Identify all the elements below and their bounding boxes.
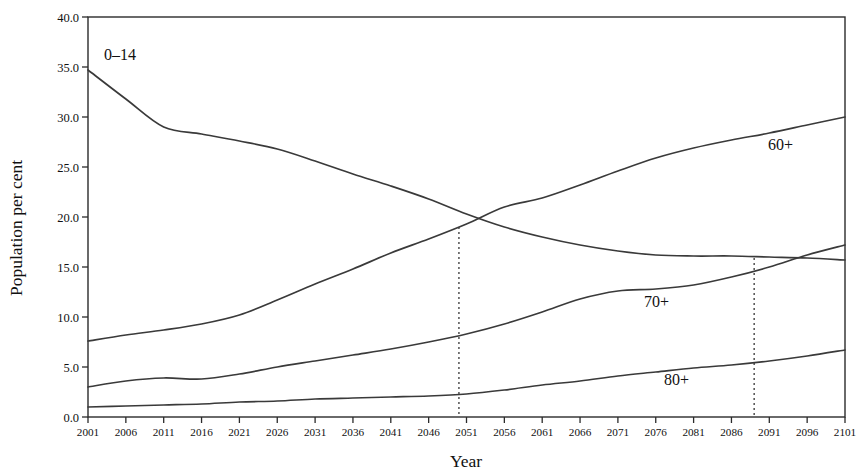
y-axis-title: Population per cent	[6, 160, 26, 296]
x-tick-label: 2071	[607, 426, 629, 438]
y-tick-label: 30.0	[57, 111, 79, 125]
y-tick-label: 25.0	[57, 161, 79, 175]
series-lines	[88, 70, 845, 407]
series-line-0-14	[88, 70, 845, 260]
x-tick-label: 2021	[228, 426, 250, 438]
y-tick-label: 10.0	[57, 311, 79, 325]
x-tick-label: 2026	[266, 426, 289, 438]
x-tick-label: 2051	[455, 426, 477, 438]
x-tick-label: 2101	[834, 426, 856, 438]
y-tick-label: 35.0	[57, 61, 79, 75]
x-tick-label: 2011	[153, 426, 175, 438]
x-axis-title: Year	[450, 451, 482, 471]
series-inline-labels: 0–1460+70+80+	[104, 46, 793, 388]
series-label-0-14: 0–14	[104, 46, 136, 63]
y-tick-label: 5.0	[63, 361, 79, 375]
plot-border	[88, 17, 845, 417]
x-tick-label: 2046	[417, 426, 440, 438]
y-tick-label: 15.0	[57, 261, 79, 275]
x-tick-label: 2056	[493, 426, 516, 438]
y-tick-label: 40.0	[57, 11, 79, 25]
series-line-60+	[88, 117, 845, 341]
y-axis-ticks: 0.05.010.015.020.025.030.035.040.0	[57, 11, 88, 425]
x-tick-label: 2091	[758, 426, 780, 438]
series-label-80+: 80+	[664, 371, 689, 388]
x-tick-label: 2031	[304, 426, 326, 438]
y-tick-label: 20.0	[57, 211, 79, 225]
x-tick-label: 2086	[720, 426, 743, 438]
x-tick-label: 2076	[645, 426, 668, 438]
x-tick-label: 2036	[342, 426, 365, 438]
population-projection-chart: 0.05.010.015.020.025.030.035.040.0 20012…	[0, 0, 868, 473]
series-label-70+: 70+	[644, 293, 669, 310]
chart-canvas: 0.05.010.015.020.025.030.035.040.0 20012…	[0, 0, 868, 473]
y-tick-label: 0.0	[63, 411, 79, 425]
x-tick-label: 2061	[531, 426, 553, 438]
plot-frame	[88, 17, 845, 417]
x-tick-label: 2041	[380, 426, 402, 438]
x-tick-label: 2001	[77, 426, 99, 438]
x-tick-label: 2006	[115, 426, 138, 438]
x-tick-label: 2096	[796, 426, 819, 438]
x-tick-label: 2016	[190, 426, 213, 438]
series-label-60+: 60+	[768, 136, 793, 153]
x-axis-ticks: 2001200620112016202120262031203620412046…	[77, 417, 856, 438]
x-tick-label: 2066	[569, 426, 592, 438]
x-tick-label: 2081	[682, 426, 704, 438]
